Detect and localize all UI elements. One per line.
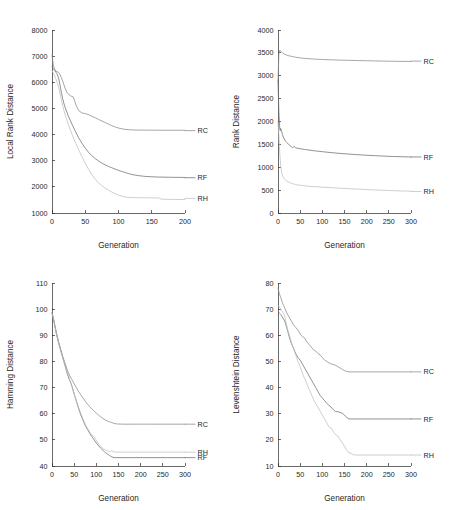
y-tick-label: 60 <box>40 409 48 418</box>
x-tick-label: 200 <box>135 470 147 479</box>
y-tick-label: 100 <box>36 305 48 314</box>
x-tick-label: 200 <box>179 217 191 226</box>
x-tick-label: 100 <box>90 470 102 479</box>
chart-svg: 1020304050607080050100150200250300Genera… <box>226 257 453 510</box>
x-tick-label: 150 <box>146 217 158 226</box>
y-tick-label: 8000 <box>32 26 48 35</box>
axis-spines <box>52 283 185 466</box>
x-tick-label: 150 <box>339 217 351 226</box>
y-tick-label: 50 <box>40 435 48 444</box>
series-line-rc <box>278 50 411 80</box>
chart-svg: 405060708090100110050100150200250300Gene… <box>0 257 227 510</box>
y-tick-label: 10 <box>266 462 274 471</box>
x-tick-label: 0 <box>276 470 280 479</box>
series-group: RCRFRH <box>52 313 208 462</box>
series-label-rc: RC <box>198 420 208 429</box>
y-tick-label: 40 <box>266 383 274 392</box>
series-label-rh: RH <box>424 187 434 196</box>
figure-panel-grid: 1000200030004000500060007000800005010015… <box>0 0 453 510</box>
series-group: RCRFRH <box>52 55 208 203</box>
y-tick-label: 4000 <box>32 130 48 139</box>
x-axis-ticks: 050100150200 <box>50 210 191 226</box>
x-tick-label: 50 <box>81 217 89 226</box>
panel-hamming-distance: 405060708090100110050100150200250300Gene… <box>0 257 227 510</box>
x-tick-label: 200 <box>361 217 373 226</box>
series-label-rh: RH <box>198 194 208 203</box>
series-group: RCRFRH <box>278 50 434 196</box>
x-tick-label: 0 <box>50 470 54 479</box>
y-tick-label: 30 <box>266 409 274 418</box>
y-tick-label: 20 <box>266 435 274 444</box>
y-axis-label: Hamming Distance <box>6 339 15 409</box>
x-axis-ticks: 050100150200250300 <box>50 463 191 479</box>
x-tick-label: 150 <box>113 470 125 479</box>
panel-local-rank-distance: 1000200030004000500060007000800005010015… <box>0 4 227 257</box>
x-tick-label: 300 <box>405 217 417 226</box>
x-tick-label: 300 <box>405 470 417 479</box>
x-tick-label: 150 <box>339 470 351 479</box>
x-tick-label: 100 <box>113 217 125 226</box>
y-axis-label: Levenshtein Distance <box>232 335 241 414</box>
x-tick-label: 100 <box>316 470 328 479</box>
x-tick-label: 300 <box>179 470 191 479</box>
x-axis-label: Generation <box>324 494 365 503</box>
series-label-rc: RC <box>424 57 434 66</box>
y-axis-ticks: 05001000150020002500300035004000 <box>258 26 282 218</box>
series-line-rf <box>52 67 185 178</box>
y-axis-label: Rank Distance <box>232 94 241 148</box>
y-tick-label: 7000 <box>32 52 48 61</box>
y-tick-label: 1000 <box>32 209 48 218</box>
x-tick-label: 0 <box>50 217 54 226</box>
y-tick-label: 2000 <box>258 117 274 126</box>
chart-svg: 1000200030004000500060007000800005010015… <box>0 4 227 257</box>
x-tick-label: 50 <box>296 470 304 479</box>
axis-spines <box>278 283 411 466</box>
y-tick-label: 0 <box>270 209 274 218</box>
x-tick-label: 50 <box>70 470 78 479</box>
x-axis-ticks: 050100150200250300 <box>276 463 417 479</box>
x-axis-label: Generation <box>324 241 365 250</box>
y-axis-ticks: 10002000300040005000600070008000 <box>32 26 56 218</box>
series-label-rh: RH <box>198 448 208 457</box>
series-line-rh <box>278 305 411 455</box>
series-label-rc: RC <box>424 367 434 376</box>
y-tick-label: 40 <box>40 462 48 471</box>
y-tick-label: 80 <box>266 279 274 288</box>
series-label-rf: RF <box>198 173 208 182</box>
y-tick-label: 2500 <box>258 94 274 103</box>
y-tick-label: 80 <box>40 357 48 366</box>
x-tick-label: 250 <box>383 470 395 479</box>
y-tick-label: 1000 <box>258 163 274 172</box>
x-axis-label: Generation <box>98 241 139 250</box>
y-tick-label: 1500 <box>258 140 274 149</box>
y-tick-label: 70 <box>266 305 274 314</box>
series-line-rh <box>52 313 185 452</box>
y-tick-label: 2000 <box>32 182 48 191</box>
series-line-rf <box>278 80 411 157</box>
series-label-rf: RF <box>424 153 434 162</box>
y-tick-label: 60 <box>266 331 274 340</box>
y-axis-label: Local Rank Distance <box>6 84 15 160</box>
x-tick-label: 250 <box>157 470 169 479</box>
y-tick-label: 50 <box>266 357 274 366</box>
series-line-rc <box>278 288 411 372</box>
x-tick-label: 200 <box>361 470 373 479</box>
y-axis-ticks: 1020304050607080 <box>266 279 282 471</box>
y-tick-label: 110 <box>36 279 47 288</box>
y-tick-label: 70 <box>40 383 48 392</box>
axis-spines <box>52 30 185 213</box>
y-tick-label: 4000 <box>258 26 274 35</box>
x-axis-ticks: 050100150200250300 <box>276 210 417 226</box>
x-tick-label: 0 <box>276 217 280 226</box>
y-tick-label: 5000 <box>32 104 48 113</box>
y-tick-label: 90 <box>40 331 48 340</box>
axes-group <box>278 283 411 466</box>
x-axis-label: Generation <box>98 494 139 503</box>
x-tick-label: 100 <box>316 217 328 226</box>
series-label-rh: RH <box>424 451 434 460</box>
axes-group <box>52 30 185 213</box>
y-tick-label: 3000 <box>32 156 48 165</box>
x-tick-label: 50 <box>296 217 304 226</box>
y-tick-label: 6000 <box>32 78 48 87</box>
panel-rank-distance: 0500100015002000250030003500400005010015… <box>226 4 453 257</box>
